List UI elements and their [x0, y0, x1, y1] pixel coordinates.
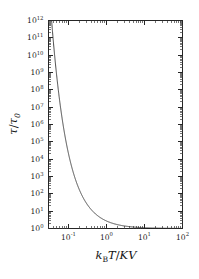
x-ticklabel-base: 10 — [61, 233, 71, 242]
data-curve-group — [52, 21, 183, 228]
y-axis-title: τ/τ0 — [6, 113, 22, 135]
y-ticklabel-base: 10 — [30, 189, 40, 198]
y-ticklabel: 1012 — [27, 15, 43, 25]
y-ticklabel-exponent: 5 — [40, 136, 43, 142]
x-ticklabel-base: 10 — [138, 233, 148, 242]
x-ticklabel: 102 — [176, 231, 189, 241]
x-ticklabel: 10-1 — [61, 231, 76, 241]
x-axis-ticklabels: 10-1100101102 — [61, 231, 189, 241]
y-axis-ticklabels: 1012101110101091081071061051041031021011… — [27, 15, 44, 233]
plot-frame — [49, 21, 183, 229]
x-ticklabel-exponent: 2 — [186, 231, 189, 237]
y-ticklabel: 102 — [30, 188, 43, 198]
x-ticklabel-exponent: 0 — [110, 231, 114, 237]
y-ticklabel-exponent: 11 — [37, 32, 44, 38]
y-ticklabel-base: 10 — [30, 137, 40, 146]
x-ticklabel-base: 10 — [100, 233, 110, 242]
y-ticklabel-base: 10 — [27, 33, 37, 42]
y-ticklabel: 106 — [30, 119, 44, 129]
x-title-V: V — [128, 248, 138, 262]
y-ticklabel: 101 — [30, 206, 43, 216]
y-ticklabel-exponent: 9 — [40, 67, 44, 73]
y-ticklabel-base: 10 — [30, 155, 40, 164]
y-ticklabel-base: 10 — [30, 120, 40, 129]
y-ticklabel-exponent: 7 — [40, 102, 43, 108]
x-ticklabel-exponent: 1 — [148, 231, 151, 237]
y-ticklabel: 1010 — [27, 50, 44, 60]
figure-container: 1012101110101091081071061051041031021011… — [0, 0, 199, 279]
y-ticklabel-base: 10 — [30, 85, 40, 94]
y-ticklabel-exponent: 6 — [40, 119, 44, 125]
y-ticklabel: 105 — [30, 136, 43, 146]
x-ticklabel: 101 — [138, 231, 151, 241]
x-title-k: k — [95, 248, 102, 262]
y-title-tau0-sub: 0 — [13, 113, 22, 118]
svg-text:kBT/KV: kBT/KV — [95, 248, 138, 264]
y-ticklabel-exponent: 3 — [40, 171, 43, 177]
svg-text:τ/τ0: τ/τ0 — [6, 113, 22, 135]
y-ticklabel-base: 10 — [30, 68, 40, 77]
y-ticklabel-base: 10 — [30, 224, 40, 233]
x-ticklabel-base: 10 — [176, 233, 186, 242]
y-ticklabel-exponent: 2 — [40, 188, 43, 194]
y-ticklabel-exponent: 0 — [40, 223, 44, 229]
y-ticklabel: 107 — [30, 102, 43, 112]
x-ticklabel: 100 — [100, 231, 114, 241]
x-ticklabel-exponent: -1 — [71, 231, 76, 237]
y-ticklabel-base: 10 — [30, 103, 40, 112]
y-ticklabel-exponent: 12 — [37, 15, 44, 21]
y-ticklabel-exponent: 1 — [40, 206, 43, 212]
x-axis-title: kBT/KV — [95, 248, 138, 264]
y-ticklabel: 100 — [30, 223, 44, 233]
y-ticklabel-base: 10 — [30, 172, 40, 181]
relaxation-curve — [52, 21, 183, 228]
y-ticklabel-base: 10 — [27, 16, 37, 25]
y-ticklabel: 103 — [30, 171, 43, 181]
y-ticklabel-base: 10 — [27, 51, 37, 60]
relaxation-time-log-log-plot: 1012101110101091081071061051041031021011… — [0, 0, 199, 279]
y-ticklabel: 108 — [30, 84, 44, 94]
y-axis-ticks — [49, 21, 183, 229]
y-ticklabel: 109 — [30, 67, 44, 77]
y-ticklabel-base: 10 — [30, 207, 40, 216]
y-ticklabel: 1011 — [27, 32, 43, 42]
x-axis-ticks — [49, 21, 183, 229]
y-ticklabel-exponent: 4 — [40, 154, 44, 160]
y-ticklabel: 104 — [30, 154, 44, 164]
y-ticklabel-exponent: 10 — [37, 50, 44, 56]
y-ticklabel-exponent: 8 — [40, 84, 44, 90]
